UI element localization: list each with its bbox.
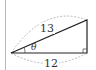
base-label: 12 <box>43 58 59 69</box>
angle-arc <box>24 47 25 53</box>
hypotenuse-label: 13 <box>39 23 55 34</box>
angle-theta-label: θ <box>31 43 36 52</box>
